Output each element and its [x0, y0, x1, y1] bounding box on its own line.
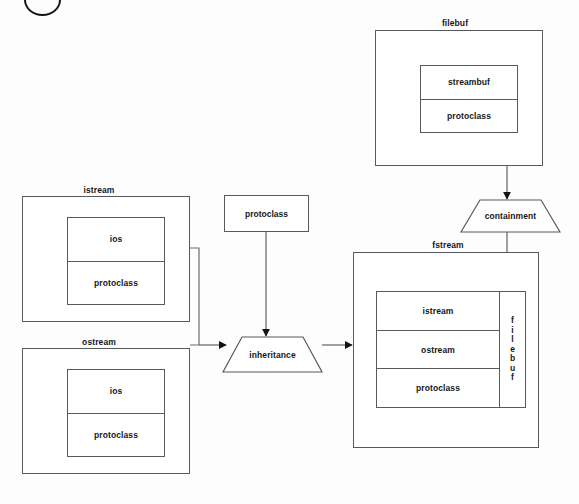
protoclass-box: protoclass	[224, 195, 309, 232]
istream-member-ios: ios	[68, 218, 164, 261]
fstream-member-stack: istream ostream protoclass	[377, 292, 499, 407]
fstream-box-title: fstream	[398, 240, 498, 250]
fstream-filebuf-vertical-label: f i l e b u f	[510, 316, 515, 383]
ostream-member-protoclass: protoclass	[68, 413, 164, 457]
filebuf-box: streambuf protoclass	[375, 30, 543, 166]
fstream-members: istream ostream protoclass f i l e b u f	[376, 291, 526, 408]
filebuf-member-protoclass: protoclass	[421, 99, 517, 133]
istream-box: ios protoclass	[22, 196, 190, 322]
fstream-box: istream ostream protoclass f i l e b u f	[353, 252, 539, 448]
istream-member-protoclass: protoclass	[68, 261, 164, 305]
ostream-members: ios protoclass	[67, 369, 165, 457]
diagram-canvas: istream ios protoclass ostream ios proto…	[0, 0, 579, 504]
bracket-istream-ostream	[190, 248, 199, 345]
containment-relation: containment	[460, 199, 561, 233]
ostream-member-ios: ios	[68, 370, 164, 413]
filebuf-members: streambuf protoclass	[420, 65, 518, 133]
istream-members: ios protoclass	[67, 217, 165, 305]
inheritance-relation: inheritance	[222, 336, 323, 373]
vl-6: f	[510, 373, 515, 383]
filebuf-member-streambuf: streambuf	[421, 66, 517, 99]
containment-label: containment	[485, 211, 537, 221]
ostream-box: ios protoclass	[22, 348, 190, 474]
fstream-member-ostream: ostream	[377, 330, 499, 369]
fstream-member-protoclass: protoclass	[377, 368, 499, 407]
ostream-box-title: ostream	[49, 337, 149, 347]
fstream-member-istream: istream	[377, 292, 499, 330]
inheritance-label: inheritance	[249, 350, 295, 360]
protoclass-box-label: protoclass	[245, 209, 288, 219]
istream-box-title: istream	[49, 185, 149, 195]
filebuf-box-title: filebuf	[405, 18, 505, 28]
fstream-member-filebuf-column: f i l e b u f	[499, 292, 525, 407]
